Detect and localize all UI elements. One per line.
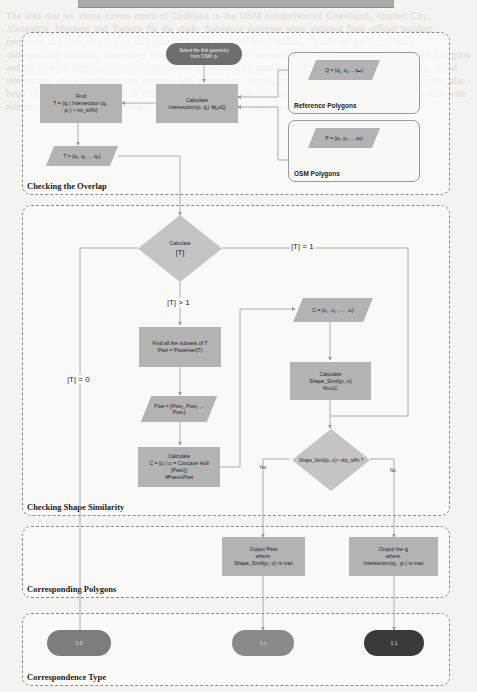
edge-label-t-eq-0: |T| = 0 (66, 375, 91, 384)
box-line: Calculate (168, 97, 225, 104)
start-node-select-geometry: Select the first geometry from OSM: pᵢ (166, 43, 242, 65)
edge-label-t-gt-1: |T| > 1 (166, 298, 191, 307)
p-set-text: P = {p₁, p₂ , .. pₙ} (325, 135, 362, 142)
box-line: (Psetᵢ)} (149, 467, 208, 474)
find-t-box: Find T = {qⱼ | Intersection (qⱼ , pᵢ ) >… (40, 84, 122, 123)
calculate-intersection-box: Calculate Intersection(pᵢ, qⱼ) ∀qⱼ∈Q (156, 84, 238, 123)
box-line: pᵢ ) > int_tol%} (53, 107, 109, 114)
c-set-text: C = {c₁ , c₂ , ... , cₗ} (312, 307, 353, 314)
t-set-text: T = {q₁, q₂ , .. qₖ} (63, 153, 100, 160)
calculate-t-decision: Calculate |T| (138, 215, 222, 282)
group-label: Reference Polygons (294, 102, 357, 109)
box-line: Shape_Simil(pᵢ, cᵢ) (309, 378, 352, 385)
box-line: Intersection(qⱼ , pᵢ ) is max (363, 560, 423, 567)
edge-label-no: No (390, 468, 396, 473)
type-1-n-terminal: 1:n (232, 630, 294, 656)
box-line: Shape_Simil(pᵢ, cᵢ) is max (234, 560, 293, 567)
output-q-box: Output the qⱼ where: Intersection(qⱼ , p… (349, 537, 438, 576)
box-line: Output the qⱼ (363, 546, 423, 553)
edge-label-t-eq-1: |T| = 1 (290, 242, 315, 251)
box-line: Calculate (149, 453, 208, 460)
box-line: Find (53, 93, 109, 100)
pset-data: Pset = {Pset₁, Pset₂ ,.. Psetₗ} (146, 396, 212, 422)
box-line: where: (363, 553, 423, 560)
start-line2: from OSM: pᵢ (179, 54, 229, 60)
type-1-1-terminal: 1:1 (364, 630, 424, 656)
box-line: Output Psetᵢ (234, 546, 293, 553)
decision-text: Shape_Simil(pᵢ, cᵢ)> shp_tol% ? (299, 458, 363, 463)
edge-label-yes: Yes (259, 465, 266, 470)
box-line: ∀Psetᵢ∈Pset (149, 474, 208, 481)
box-line: where: (234, 553, 293, 560)
terminal-text: 1:0 (76, 640, 83, 646)
terminal-text: 1:1 (391, 640, 398, 646)
q-set-text: Q = {q₁, q₂, .. qₘ} (325, 67, 363, 74)
pset-line: Psetₗ} (154, 409, 203, 416)
box-line: ∀cᵢ∈C (309, 385, 352, 392)
output-pset-box: Output Psetᵢ where: Shape_Simil(pᵢ, cᵢ) … (222, 537, 305, 576)
diamond-line: Calculate (170, 240, 191, 246)
p-set-data: P = {p₁, p₂ , .. pₙ} (312, 128, 376, 148)
calculate-shape-similarity-box: Calculate Shape_Simil(pᵢ, cᵢ) ∀cᵢ∈C (290, 362, 371, 400)
box-line: Calculate (309, 371, 352, 378)
box-line: C = {cᵢ | cᵢ = Concave Hull (149, 460, 208, 467)
group-label: OSM Polygons (294, 170, 340, 177)
box-line: Find all the subsets of T (153, 340, 208, 347)
box-line: T = {qⱼ | Intersection (qⱼ , (53, 100, 109, 107)
shape-similarity-decision: Shape_Simil(pᵢ, cᵢ)> shp_tol% ? (292, 429, 370, 491)
box-line: Pset = Powerset(T) (153, 347, 208, 354)
q-set-data: Q = {q₁, q₂, .. qₘ} (312, 60, 376, 80)
c-set-data: C = {c₁ , c₂ , ... , cₗ} (298, 298, 368, 322)
box-line: Intersection(pᵢ, qⱼ) ∀qⱼ∈Q (168, 104, 225, 111)
diamond-line: |T| (170, 248, 191, 257)
terminal-text: 1:n (260, 640, 267, 646)
t-set-data: T = {q₁, q₂ , .. qₖ} (50, 146, 114, 166)
calculate-concave-hull-box: Calculate C = {cᵢ | cᵢ = Concave Hull (P… (138, 447, 220, 487)
find-subsets-box: Find all the subsets of T Pset = Powerse… (139, 327, 221, 367)
type-1-0-terminal: 1:0 (47, 630, 111, 656)
